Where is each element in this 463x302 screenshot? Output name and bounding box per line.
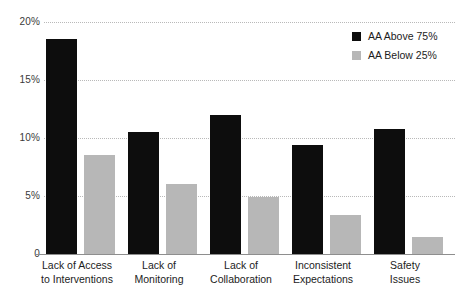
x-axis-label-line: Issues: [350, 272, 460, 286]
x-axis-label-line: Safety: [350, 258, 460, 272]
x-axis-labels: Lack of Access to Interventions Lack of …: [44, 258, 455, 302]
y-tick-label: 20%: [0, 17, 40, 27]
legend-label: AA Above 75%: [368, 31, 437, 42]
chart-legend: AA Above 75% AA Below 25%: [352, 28, 462, 66]
y-tick-label: 15%: [0, 75, 40, 85]
bar-group: [46, 22, 115, 254]
y-tick-label: 10%: [0, 133, 40, 143]
bar-group: [210, 22, 279, 254]
bar-below-25: [412, 237, 443, 254]
legend-swatch-above-icon: [352, 32, 361, 41]
bar-above-75: [374, 129, 405, 254]
bar-above-75: [210, 115, 241, 254]
bar-below-25: [84, 155, 115, 254]
legend-label: AA Below 25%: [368, 50, 437, 61]
bar-group: [128, 22, 197, 254]
bar-above-75: [128, 132, 159, 254]
legend-item-below-25: AA Below 25%: [352, 47, 462, 63]
y-tick-label: 5%: [0, 191, 40, 201]
bar-above-75: [292, 145, 323, 254]
x-axis-label: Safety Issues: [350, 258, 460, 286]
x-axis-baseline: [36, 254, 455, 255]
legend-swatch-below-icon: [352, 51, 361, 60]
y-axis: 20% 15% 10% 5% 0: [0, 0, 40, 302]
bar-group: [292, 22, 361, 254]
bar-below-25: [166, 184, 197, 254]
bar-below-25: [330, 215, 361, 254]
bar-below-25: [248, 197, 279, 254]
bar-above-75: [46, 39, 77, 254]
legend-item-above-75: AA Above 75%: [352, 28, 462, 44]
bar-chart: 20% 15% 10% 5% 0: [0, 0, 463, 302]
